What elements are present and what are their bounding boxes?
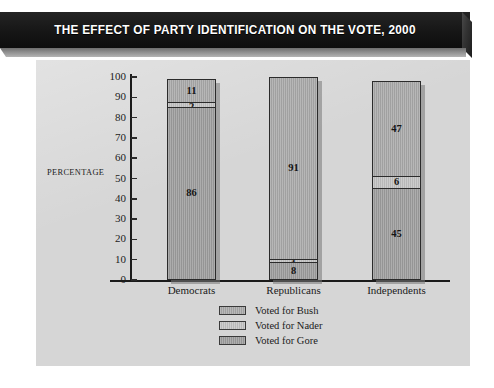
bar-segment-value: 8 [291,266,296,277]
bar-segment-value: 91 [288,163,299,174]
legend-item: Voted for Gore [219,333,322,347]
y-tick-label: 50 [96,172,126,184]
bar-segment: 47 [373,82,420,175]
y-tick-label: 10 [96,253,126,265]
bar-segment: 86 [168,107,215,279]
y-tick-label: 0 [96,273,126,285]
bar-stack-independents: 47645 [372,81,421,280]
bar-stack-republicans: 9118 [269,77,318,280]
category-label-independents: Independents [332,284,462,296]
y-tick-label: 60 [96,151,126,163]
y-tick-mark [131,157,137,159]
y-tick-mark [131,117,137,119]
bar-segments: 9118 [269,77,318,280]
y-tick-mark [131,279,137,281]
bar-segments: 47645 [372,81,421,280]
bar-segment-value: 6 [394,177,399,188]
bar-segment-value: 11 [187,86,197,97]
legend-swatch [219,336,246,345]
legend: Voted for BushVoted for NaderVoted for G… [219,303,322,348]
bar-segments: 11286 [167,79,216,280]
chart-screenshot: THE EFFECT OF PARTY IDENTIFICATION ON TH… [0,0,494,388]
y-tick-mark [131,259,137,261]
y-tick-label: 20 [96,232,126,244]
bar-segment-value: 45 [391,229,402,240]
y-tick-mark [131,97,137,99]
bar-segment: 11 [168,80,215,102]
bar-segment-value: 47 [391,124,402,135]
bar-segment: 8 [270,262,317,279]
legend-item: Voted for Nader [219,318,322,332]
legend-item: Voted for Bush [219,303,322,317]
bar-segment: 91 [270,78,317,259]
legend-label: Voted for Gore [255,335,318,346]
bar-stack-democrats: 11286 [167,79,216,280]
y-tick-mark [131,218,137,220]
y-tick-label: 90 [96,90,126,102]
y-tick-mark [131,137,137,139]
y-tick-label: 30 [96,212,126,224]
legend-label: Voted for Bush [255,305,318,316]
y-tick-mark [131,239,137,241]
y-tick-mark [131,76,137,78]
bar-segment: 45 [373,188,420,279]
y-tick-label: 40 [96,192,126,204]
y-tick-label: 70 [96,131,126,143]
y-tick-mark [131,178,137,180]
bar-segment-value: 86 [186,188,197,199]
legend-swatch [219,321,246,330]
y-tick-mark [131,198,137,200]
y-tick-label: 100 [96,70,126,82]
legend-label: Voted for Nader [255,320,322,331]
bar-segment: 6 [373,176,420,189]
y-tick-label: 80 [96,111,126,123]
legend-swatch [219,306,246,315]
